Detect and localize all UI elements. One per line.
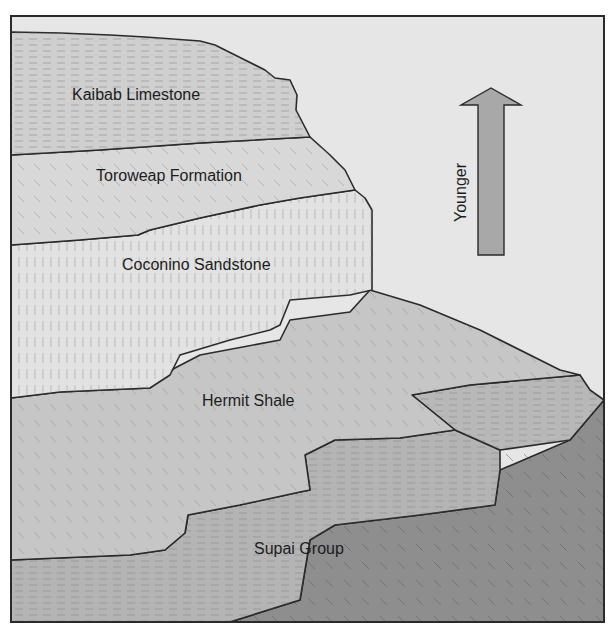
label-toroweap-formation: Toroweap Formation <box>96 167 242 184</box>
age-arrow-label: Younger <box>452 162 469 222</box>
label-hermit-shale: Hermit Shale <box>202 392 295 409</box>
geologic-diagram: Younger Kaibab Limestone Toroweap Format… <box>0 0 611 637</box>
label-coconino-sandstone: Coconino Sandstone <box>122 256 271 273</box>
label-kaibab-limestone: Kaibab Limestone <box>72 86 200 103</box>
label-supai-group: Supai Group <box>254 540 344 557</box>
